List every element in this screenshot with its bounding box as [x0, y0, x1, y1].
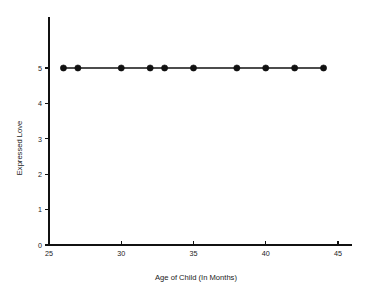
data-point-32: [147, 65, 153, 71]
x-tick-label-45: 45: [334, 249, 342, 258]
data-point-33: [162, 65, 168, 71]
x-tick-label-30: 30: [117, 249, 125, 258]
y-tick-label-5: 5: [38, 64, 42, 73]
x-tick-label-35: 35: [190, 249, 198, 258]
data-point-30: [118, 65, 124, 71]
x-tick-label-40: 40: [262, 249, 270, 258]
y-axis-title: Expressed Love: [15, 121, 24, 175]
y-tick-label-4: 4: [38, 99, 42, 108]
data-point-26: [60, 65, 66, 71]
chart-container: 012345 2530354045 Age of Child (In Month…: [0, 0, 369, 300]
axes-group: [49, 17, 352, 245]
data-point-38: [234, 65, 240, 71]
y-tick-label-2: 2: [38, 170, 42, 179]
y-tick-label-3: 3: [38, 135, 42, 144]
data-point-40: [263, 65, 269, 71]
y-tick-label-0: 0: [38, 241, 42, 250]
x-tick-label-25: 25: [45, 249, 53, 258]
data-point-35: [190, 65, 196, 71]
x-axis-ticks: 2530354045: [45, 241, 342, 258]
data-point-27: [75, 65, 81, 71]
data-point-42: [292, 65, 298, 71]
y-tick-label-1: 1: [38, 205, 42, 214]
x-axis-title: Age of Child (In Months): [155, 273, 237, 282]
data-series-group: [60, 65, 326, 71]
expressed-love-line-chart: 012345 2530354045 Age of Child (In Month…: [0, 0, 369, 300]
data-point-44: [320, 65, 326, 71]
y-axis-ticks: 012345: [38, 64, 49, 250]
